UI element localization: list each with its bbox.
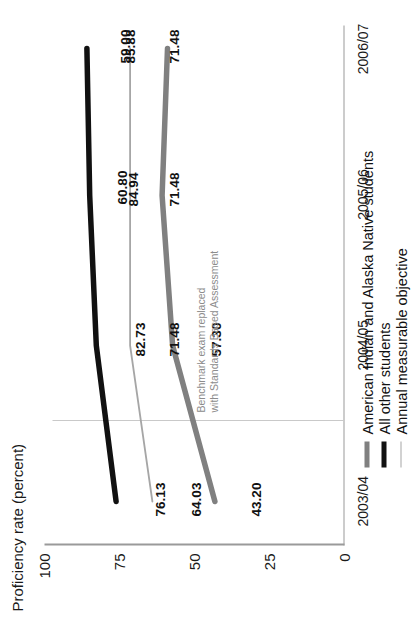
legend-item-american-indian-alaska-native[interactable]: American Indian and Alaska Native studen… xyxy=(358,150,375,467)
data-label-aian-2006-07: 59.00 xyxy=(118,29,133,63)
annotation-line-1: Benchmark exam replaced xyxy=(194,250,207,412)
plot-area: 100 75 50 25 0 2003/04 2004/05 2005/06 2… xyxy=(44,25,344,545)
y-tick-75: 75 xyxy=(111,553,128,570)
line-all-other-students xyxy=(86,48,115,501)
annotation-line-2: with Standards Based Assessment xyxy=(207,250,220,412)
x-tick-2003-04: 2003/04 xyxy=(354,476,370,527)
y-axis-title: Proficiency rate (percent) xyxy=(8,443,25,611)
chart-legend: American Indian and Alaska Native studen… xyxy=(358,150,409,467)
legend-swatch-icon-all-other xyxy=(381,441,386,467)
data-label-all-other-2003-04: 76.13 xyxy=(152,482,167,516)
data-label-amo-2005-06: 71.48 xyxy=(166,172,181,206)
legend-label-amo: Annual measurable objective xyxy=(393,248,409,434)
legend-label-aian: American Indian and Alaska Native studen… xyxy=(359,150,375,434)
exam-change-annotation: Benchmark exam replaced with Standards B… xyxy=(194,250,220,412)
legend-item-all-other-students[interactable]: All other students xyxy=(375,150,392,467)
line-annual-measurable-objective xyxy=(130,48,152,501)
data-label-amo-2004-05: 71.48 xyxy=(166,322,181,356)
data-label-amo-2006-07: 71.48 xyxy=(166,29,181,63)
legend-swatch-icon-amo xyxy=(400,441,402,467)
legend-label-all-other: All other students xyxy=(376,322,392,434)
y-tick-100: 100 xyxy=(36,553,53,578)
x-tick-2006-07: 2006/07 xyxy=(354,23,370,74)
data-label-amo-2003-04: 64.03 xyxy=(188,482,203,516)
y-tick-25: 25 xyxy=(261,553,278,570)
data-label-aian-2005-06: 60.80 xyxy=(114,170,129,204)
chart-canvas: Proficiency rate (percent) 100 75 50 25 … xyxy=(0,0,415,617)
y-tick-50: 50 xyxy=(186,553,203,570)
y-tick-0: 0 xyxy=(336,553,353,561)
legend-item-annual-measurable-objective[interactable]: Annual measurable objective xyxy=(392,150,409,467)
data-label-all-other-2004-05: 82.73 xyxy=(132,322,147,356)
data-label-aian-2003-04: 43.20 xyxy=(249,482,264,516)
legend-swatch-icon-aian xyxy=(364,441,369,467)
rotated-figure: Proficiency rate (percent) 100 75 50 25 … xyxy=(0,0,415,617)
